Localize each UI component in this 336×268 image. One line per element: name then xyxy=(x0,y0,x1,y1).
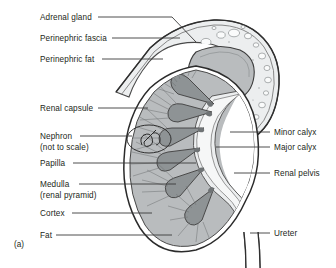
label-papilla: Papilla xyxy=(40,159,65,169)
ureter-shape xyxy=(244,232,260,268)
label-minor-calyx: Minor calyx xyxy=(274,128,317,138)
label-major-calyx: Major calyx xyxy=(274,143,317,153)
label-perinephric-fascia: Perinephric fascia xyxy=(40,34,107,44)
label-nephron: Nephron xyxy=(40,132,72,142)
label-adrenal-gland: Adrenal gland xyxy=(40,13,92,23)
label-perinephric-fat: Perinephric fat xyxy=(40,55,94,65)
label-medulla-note: (renal pyramid) xyxy=(40,191,97,201)
label-medulla: Medulla xyxy=(40,180,69,190)
label-nephron-note: (not to scale) xyxy=(40,143,89,153)
label-ureter: Ureter xyxy=(274,229,297,239)
label-renal-capsule: Renal capsule xyxy=(40,104,93,114)
label-cortex: Cortex xyxy=(40,209,65,219)
label-renal-pelvis: Renal pelvis xyxy=(274,169,320,179)
label-fat: Fat xyxy=(40,231,52,241)
kidney-anatomy-figure: Adrenal gland Perinephric fascia Perinep… xyxy=(0,0,336,268)
figure-caption: (a) xyxy=(14,240,24,249)
